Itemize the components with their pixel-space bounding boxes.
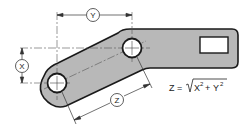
dimension-x-label: X xyxy=(19,62,25,71)
formula-lhs: Z = xyxy=(169,83,182,93)
formula-exp1: 2 xyxy=(200,81,204,87)
formula-plus: + xyxy=(205,83,210,93)
dimension-y-label: Y xyxy=(90,11,96,20)
formula-term2: Y xyxy=(213,83,219,93)
formula: Z = X 2 + Y 2 xyxy=(169,79,227,93)
link-dimension-diagram: Y X Z Z = X 2 + Y 2 xyxy=(0,0,252,133)
formula-exp2: 2 xyxy=(220,81,224,87)
rectangular-slot xyxy=(200,37,228,53)
dimension-z-label: Z xyxy=(115,96,120,105)
